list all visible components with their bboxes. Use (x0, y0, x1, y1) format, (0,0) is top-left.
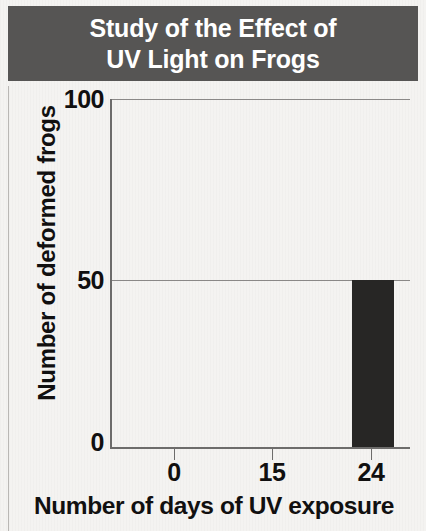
chart-figure: Study of the Effect of UV Light on Frogs… (0, 0, 426, 531)
y-tick-label-0: 0 (8, 428, 104, 457)
y-axis-title: Number of deformed frogs (33, 88, 61, 418)
bar-24 (352, 280, 394, 447)
x-tick-label-15: 15 (242, 458, 302, 487)
x-axis-line (110, 447, 410, 449)
chart-title: Study of the Effect of UV Light on Frogs (90, 13, 337, 75)
gridline-100 (112, 99, 410, 100)
x-tick-label-24: 24 (341, 458, 401, 487)
plot-area (110, 99, 410, 447)
x-tick-label-0: 0 (144, 458, 204, 487)
x-axis-title: Number of days of UV exposure (8, 492, 420, 520)
